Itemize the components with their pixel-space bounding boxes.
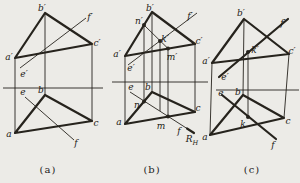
caption-figure-a: (a) <box>28 164 68 175</box>
label-m: m <box>157 121 166 131</box>
label-k-prime: k′ <box>161 34 169 44</box>
label-b-prime: b′ <box>38 3 46 13</box>
label-b: b <box>235 87 241 97</box>
label-n-prime: n′ <box>135 16 143 26</box>
label-f: f <box>73 138 79 148</box>
point-k-prime <box>246 50 250 54</box>
label-b-prime: b′ <box>146 3 154 13</box>
label-f-prime: f′ <box>279 18 285 28</box>
caption-figure-b: (b) <box>132 164 172 175</box>
projector-a <box>210 63 212 135</box>
label-m-prime: m′ <box>167 52 178 62</box>
label-f-prime: f′ <box>86 12 92 22</box>
label-a-prime: a′ <box>202 56 209 66</box>
projector-c <box>284 54 289 118</box>
label-e: e <box>128 82 133 92</box>
triangle-abc-front-view <box>15 13 92 58</box>
label-a: a <box>6 129 11 139</box>
label-k: k <box>240 119 245 129</box>
label-e: e <box>218 88 223 98</box>
point-n <box>142 100 146 104</box>
label-RH: RH <box>185 134 199 147</box>
label-a: a <box>202 132 207 142</box>
figure-b: b′n′k′f′c′a′m′e′ebnamcfRH <box>112 3 208 147</box>
label-f: f <box>270 140 276 150</box>
label-c-prime: c′ <box>195 36 202 46</box>
label-f-prime: f′ <box>186 11 192 21</box>
label-k-prime: k′ <box>251 45 259 55</box>
label-e-prime: e′ <box>127 63 134 73</box>
label-f: f <box>176 126 182 136</box>
label-a-prime: a′ <box>113 49 120 59</box>
point-m-prime <box>166 47 170 51</box>
label-e-prime: e′ <box>221 72 228 82</box>
label-e-prime: e′ <box>20 69 27 79</box>
label-b-prime: b′ <box>237 8 245 18</box>
label-b: b <box>145 82 151 92</box>
label-c-prime: c′ <box>288 46 295 56</box>
label-e: e <box>20 87 25 97</box>
label-a-prime: a′ <box>5 52 12 62</box>
trace-RH-tick <box>187 129 194 134</box>
triangle-abc-top-view <box>15 95 92 133</box>
line-ef-top-view <box>25 97 74 140</box>
diagram-canvas: a′b′f′c′e′ebcafb′n′k′f′c′a′m′e′ebnamcfRH… <box>0 0 300 183</box>
triangle-abc-front-view <box>212 19 289 63</box>
figure-c: b′f′k′c′a′e′ebcakf <box>202 8 299 150</box>
line-ef-front-view <box>20 18 86 68</box>
label-c: c <box>285 116 290 126</box>
point-k <box>246 115 250 119</box>
label-b: b <box>38 85 44 95</box>
label-c: c <box>195 103 200 113</box>
label-c-prime: c′ <box>93 38 100 48</box>
caption-figure-c: (c) <box>232 164 272 175</box>
label-c: c <box>93 118 98 128</box>
label-a: a <box>116 117 121 127</box>
diagram-stage: a′b′f′c′e′ebcafb′n′k′f′c′a′m′e′ebnamcfRH… <box>0 0 300 183</box>
figure-a: a′b′f′c′e′ebcaf <box>3 3 103 148</box>
point-m <box>166 115 170 119</box>
label-n: n <box>134 100 140 110</box>
